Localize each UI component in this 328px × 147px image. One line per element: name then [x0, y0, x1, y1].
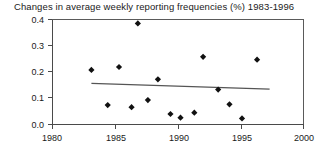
x-tick-label-1980: 1980 — [42, 133, 62, 143]
y-tick-label-0: 0.0 — [31, 120, 44, 130]
data-point — [191, 110, 197, 116]
plot-frame — [52, 19, 304, 125]
scatter-plot: 0.4 0.3 0.2 0.1 0.0 1980 1985 1990 1995 … — [0, 0, 328, 147]
y-axis-tick-labels: 0.4 0.3 0.2 0.1 0.0 — [31, 15, 44, 130]
trend-line-group — [91, 83, 269, 89]
y-tick-label-3: 0.3 — [31, 41, 44, 51]
data-point — [128, 104, 134, 110]
data-point — [116, 64, 122, 70]
x-tick-label-1985: 1985 — [106, 133, 126, 143]
data-point — [167, 111, 173, 117]
data-point — [135, 20, 141, 26]
data-point — [239, 115, 245, 121]
x-tick-label-1995: 1995 — [232, 133, 252, 143]
data-point — [226, 101, 232, 107]
data-point — [155, 76, 161, 82]
chart-figure: Changes in average weekly reporting freq… — [0, 0, 328, 147]
data-point — [88, 67, 94, 73]
data-points-group — [88, 20, 260, 121]
data-point — [105, 102, 111, 108]
x-axis-tick-labels: 1980 1985 1990 1995 2000 — [42, 133, 314, 143]
y-tick-label-1: 0.1 — [31, 93, 44, 103]
x-tick-label-2000: 2000 — [294, 133, 314, 143]
data-point — [145, 97, 151, 103]
data-point — [177, 115, 183, 121]
y-tick-label-4: 0.4 — [31, 15, 44, 25]
trend-line — [91, 83, 269, 89]
x-tick-label-1990: 1990 — [169, 133, 189, 143]
data-point — [200, 54, 206, 60]
y-axis-ticks — [48, 20, 52, 125]
data-point — [254, 57, 260, 63]
y-tick-label-2: 0.2 — [31, 67, 44, 77]
